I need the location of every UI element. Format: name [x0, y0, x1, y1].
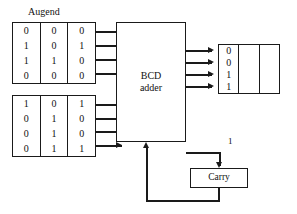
- addend-bit: 0: [79, 114, 84, 124]
- addend-bit: 1: [52, 129, 57, 139]
- augend-bit: 0: [79, 56, 84, 66]
- addend-column-2: 0 1 1 1: [41, 96, 69, 156]
- addend-bit: 1: [52, 114, 57, 124]
- addend-bit: 1: [79, 99, 84, 109]
- addend-bit: 1: [24, 99, 29, 109]
- sum-column-3: [260, 45, 279, 93]
- addend-bit: 0: [79, 129, 84, 139]
- feedback-wire-left: [146, 200, 220, 202]
- carry-unit: Carry: [190, 168, 248, 188]
- augend-bit: 0: [52, 41, 57, 51]
- bcd-adder-unit: BCD adder: [116, 22, 186, 142]
- augend-column-1: 0 1 1 0: [13, 23, 41, 83]
- sum-arrow-1: [208, 47, 214, 53]
- addend-bit: 0: [24, 114, 29, 124]
- bcd-adder-label-line2: adder: [140, 82, 162, 94]
- augend-bit: 1: [24, 56, 29, 66]
- bcd-adder-label-line1: BCD: [141, 70, 162, 82]
- sum-register-table: 0 0 1 1: [218, 44, 280, 94]
- augend-column-2: 0 0 1 0: [41, 23, 69, 83]
- augend-bit: 0: [52, 71, 57, 81]
- sum-arrow-2: [208, 59, 214, 65]
- augend-bit: 1: [24, 41, 29, 51]
- augend-bit: 0: [79, 26, 84, 36]
- feedback-arrow-into-adder: [143, 142, 149, 148]
- addend-register-table: 1 0 0 0 0 1 1 1 1 0 0 1: [12, 95, 96, 157]
- addend-column-3: 1 0 0 1: [68, 96, 95, 156]
- sum-bit: 1: [226, 82, 231, 92]
- sum-arrow-4: [208, 83, 214, 89]
- addend-column-1: 1 0 0 0: [13, 96, 41, 156]
- augend-label: Augend: [28, 6, 60, 17]
- carry-flag-value: 1: [228, 136, 233, 146]
- augend-register-table: 0 1 1 0 0 0 1 0 0 1 0 0: [12, 22, 96, 84]
- augend-bit: 0: [24, 71, 29, 81]
- feedback-wire-up: [146, 148, 148, 201]
- sum-arrow-3: [208, 71, 214, 77]
- augend-bit: 0: [52, 26, 57, 36]
- carry-out-wire-horizontal: [186, 152, 221, 154]
- augend-bit: 0: [79, 71, 84, 81]
- bcd-adder-diagram: Augend 0 1 1 0 0 0 1 0 0 1 0 0 1 0 0 0: [0, 0, 297, 214]
- augend-bit: 1: [52, 56, 57, 66]
- addend-bit: 0: [24, 144, 29, 154]
- sum-column-1: 0 0 1 1: [219, 45, 239, 93]
- sum-column-2: [239, 45, 259, 93]
- sum-bit: 0: [226, 46, 231, 56]
- augend-column-3: 0 1 0 0: [68, 23, 95, 83]
- addend-bit: 1: [52, 144, 57, 154]
- addend-bit: 1: [79, 144, 84, 154]
- addend-arrow-4: [116, 142, 122, 148]
- addend-bit: 0: [52, 99, 57, 109]
- addend-bit: 0: [24, 129, 29, 139]
- sum-bit: 1: [226, 70, 231, 80]
- carry-label: Carry: [208, 173, 230, 183]
- sum-bit: 0: [226, 58, 231, 68]
- augend-bit: 1: [79, 41, 84, 51]
- augend-bit: 0: [24, 26, 29, 36]
